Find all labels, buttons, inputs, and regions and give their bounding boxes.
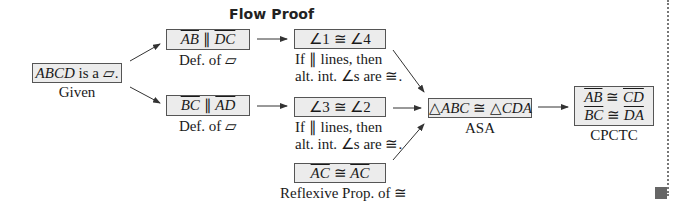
flow-arrows	[0, 0, 688, 214]
margin-dotted-line	[667, 0, 669, 196]
end-of-proof-icon	[655, 187, 667, 199]
